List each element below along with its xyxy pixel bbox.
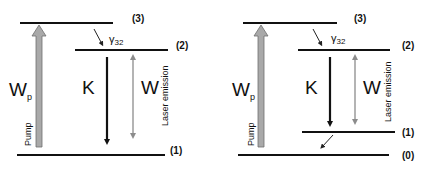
stimulated-label: W — [363, 77, 381, 98]
level-2-label: (2) — [176, 40, 188, 51]
pump-rate-label: Wp — [232, 79, 255, 102]
decay-label: γ32 — [109, 33, 124, 47]
spontaneous-label: K — [305, 77, 318, 98]
four-level-diagram: (3) (2) (1) (0) Wp Pump γ32 K W Laser em… — [232, 13, 414, 161]
ground-decay-arrow-icon — [322, 135, 333, 147]
pump-arrow-icon — [32, 25, 46, 147]
level-1-label: (1) — [170, 145, 182, 156]
decay-label: γ32 — [331, 32, 346, 46]
level-3-label: (3) — [132, 13, 144, 24]
decay-arrow-icon — [94, 29, 102, 44]
stimulated-label: W — [141, 77, 159, 98]
pump-label: Pump — [23, 122, 33, 146]
level-1-label: (1) — [402, 127, 414, 138]
three-level-diagram: (3) (2) (1) Wp Pump γ32 K W Laser emissi… — [9, 13, 188, 156]
pump-arrow-icon — [254, 25, 268, 147]
spontaneous-label: K — [82, 77, 95, 98]
level-2-label: (2) — [402, 40, 414, 51]
pump-label: Pump — [246, 122, 256, 146]
emission-label: Laser emission — [160, 65, 170, 126]
level-3-label: (3) — [354, 13, 366, 24]
decay-arrow-icon — [313, 29, 321, 44]
emission-label: Laser emission — [383, 61, 393, 122]
energy-level-diagrams: (3) (2) (1) Wp Pump γ32 K W Laser emissi… — [0, 0, 429, 172]
level-0-label: (0) — [402, 150, 414, 161]
pump-rate-label: Wp — [9, 79, 32, 102]
